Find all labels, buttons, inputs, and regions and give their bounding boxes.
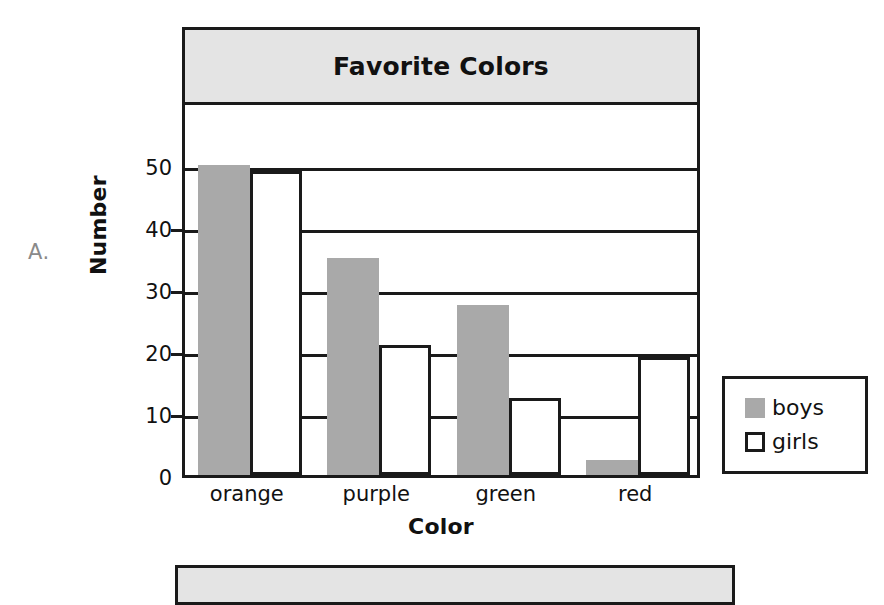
legend-item-girls: girls	[745, 425, 865, 459]
x-tick-label-orange: orange	[210, 482, 284, 506]
y-tick-mark-20	[171, 353, 182, 356]
y-tick-label-10: 10	[145, 404, 172, 428]
y-tick-label-30: 30	[145, 280, 172, 304]
legend-label-boys: boys	[772, 397, 824, 419]
bar-purple-boys	[327, 258, 379, 475]
plot-area	[182, 105, 700, 478]
bar-red-girls	[638, 357, 690, 475]
chart-title-band: Favorite Colors	[182, 27, 700, 105]
chart-title: Favorite Colors	[333, 52, 549, 81]
bars-layer	[185, 105, 697, 475]
chart-b-title-band-cropped	[175, 565, 735, 605]
y-tick-mark-10	[171, 415, 182, 418]
y-tick-mark-40	[171, 229, 182, 232]
y-tick-mark-30	[171, 291, 182, 294]
figure-label-a: A.	[28, 240, 50, 264]
y-tick-label-20: 20	[145, 342, 172, 366]
legend-swatch-girls-icon	[745, 432, 765, 452]
y-tick-label-40: 40	[145, 218, 172, 242]
legend-swatch-boys-icon	[745, 398, 765, 418]
y-axis-tick-labels: 01020304050	[122, 27, 172, 478]
y-tick-label-50: 50	[145, 156, 172, 180]
x-axis-tick-labels: orangepurplegreenred	[182, 482, 700, 512]
bar-red-boys	[586, 460, 638, 476]
legend-item-boys: boys	[745, 391, 865, 425]
bar-purple-girls	[379, 345, 431, 475]
x-tick-label-purple: purple	[343, 482, 410, 506]
x-axis-title: Color	[182, 514, 700, 539]
y-tick-label-0: 0	[159, 466, 172, 490]
bar-green-boys	[457, 305, 509, 476]
x-tick-label-green: green	[475, 482, 536, 506]
legend-label-girls: girls	[772, 431, 819, 453]
y-axis-title: Number	[86, 175, 111, 275]
bar-chart-favorite-colors: Favorite Colors	[182, 27, 700, 478]
bar-orange-girls	[250, 171, 302, 475]
chart-legend: boys girls	[722, 376, 868, 474]
bar-green-girls	[509, 398, 561, 476]
bar-orange-boys	[198, 165, 250, 475]
y-axis-tick-marks	[171, 27, 182, 478]
x-tick-label-red: red	[618, 482, 652, 506]
